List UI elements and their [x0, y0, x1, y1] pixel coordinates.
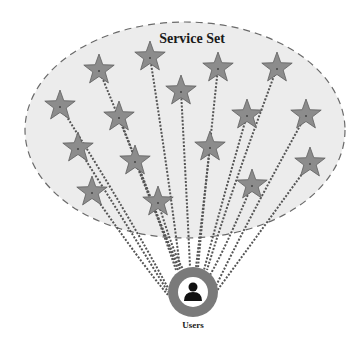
service-star-center	[118, 117, 120, 119]
service-star-center	[98, 70, 100, 72]
users-label: Users	[182, 320, 204, 330]
service-star-center	[251, 185, 253, 187]
service-star-center	[246, 115, 248, 117]
service-star-center	[91, 192, 93, 194]
service-set-boundary	[25, 22, 345, 238]
service-set-diagram: Service Set Users	[0, 0, 364, 342]
service-star-center	[59, 106, 61, 108]
users-node[interactable]	[168, 267, 218, 317]
service-star-center	[134, 161, 136, 163]
service-star-center	[157, 202, 159, 204]
service-star-center	[309, 163, 311, 165]
service-star-center	[77, 148, 79, 150]
service-star-center	[276, 68, 278, 70]
service-star-center	[217, 68, 219, 70]
service-star-center	[209, 147, 211, 149]
service-star-center	[180, 91, 182, 93]
service-star-center	[305, 115, 307, 117]
service-set-title: Service Set	[159, 31, 225, 46]
service-star-center	[149, 57, 151, 59]
